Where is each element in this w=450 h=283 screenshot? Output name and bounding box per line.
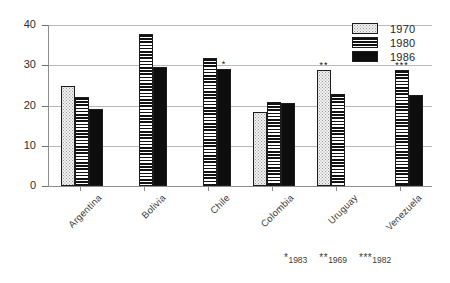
- x-tick-colombia: [272, 186, 273, 191]
- legend-item-1980: 1980: [352, 36, 415, 49]
- x-label-venezuela: Venezuela: [383, 192, 423, 232]
- footnote-year: 1969: [328, 255, 347, 265]
- footnote-1982: ***1982: [359, 255, 391, 265]
- x-tick-venezuela: [400, 186, 401, 191]
- bar-venezuela-1986: [409, 95, 423, 186]
- bar-argentina-1970: [61, 86, 75, 186]
- bar-chile-1980: [203, 58, 217, 186]
- bar-group-argentina: [48, 25, 112, 186]
- annotation-chile: *: [222, 62, 227, 67]
- bar-chile-1986: [217, 69, 231, 186]
- legend: 1970 1980 1986: [352, 22, 415, 64]
- bar-argentina-1986: [89, 109, 103, 186]
- bar-chart: 010203040 ****** ArgentinaBoliviaChileCo…: [0, 0, 450, 283]
- y-tick-label-10: 10: [6, 139, 36, 151]
- footnote-mark: ***: [359, 252, 372, 263]
- footnote-year: 1983: [288, 255, 307, 265]
- x-tick-bolivia: [144, 186, 145, 191]
- legend-swatch-1986: [352, 51, 378, 62]
- legend-swatch-1970: [352, 23, 378, 34]
- bar-group-chile: *: [176, 25, 240, 186]
- x-label-colombia: Colombia: [258, 192, 295, 229]
- footnote-year: 1982: [372, 255, 391, 265]
- y-tick-label-40: 40: [6, 18, 36, 30]
- x-label-argentina: Argentina: [66, 192, 104, 230]
- footnote-1983: *1983: [284, 255, 307, 265]
- y-tick-label-30: 30: [6, 58, 36, 70]
- bar-uruguay-1980: [331, 94, 345, 186]
- bar-group-bolivia: [112, 25, 176, 186]
- bar-colombia-1970: [253, 112, 267, 186]
- bar-bolivia-1980: [139, 34, 153, 186]
- x-label-bolivia: Bolivia: [139, 192, 168, 221]
- annotation-uruguay: **: [319, 63, 328, 68]
- legend-swatch-1980: [352, 37, 378, 48]
- bar-bolivia-1986: [153, 67, 167, 186]
- legend-label-1986: 1986: [390, 51, 415, 63]
- legend-label-1980: 1980: [390, 37, 415, 49]
- x-tick-chile: [208, 186, 209, 191]
- bar-uruguay-1970: [317, 70, 331, 186]
- x-label-chile: Chile: [208, 192, 232, 216]
- bar-colombia-1986: [281, 103, 295, 186]
- x-label-uruguay: Uruguay: [326, 192, 360, 226]
- legend-item-1970: 1970: [352, 22, 415, 35]
- x-axis-line: [48, 186, 432, 187]
- footnote-mark: **: [319, 252, 328, 263]
- bar-group-colombia: [240, 25, 304, 186]
- bar-colombia-1980: [267, 102, 281, 186]
- y-tick-label-0: 0: [6, 179, 36, 191]
- legend-label-1970: 1970: [390, 23, 415, 35]
- legend-item-1986: 1986: [352, 50, 415, 63]
- bar-venezuela-1980: [395, 70, 409, 186]
- bar-argentina-1980: [75, 97, 89, 186]
- x-tick-uruguay: [336, 186, 337, 191]
- x-tick-argentina: [80, 186, 81, 191]
- footnotes: *1983**1969***1982: [284, 252, 403, 265]
- y-tick-label-20: 20: [6, 99, 36, 111]
- footnote-1969: **1969: [319, 255, 347, 265]
